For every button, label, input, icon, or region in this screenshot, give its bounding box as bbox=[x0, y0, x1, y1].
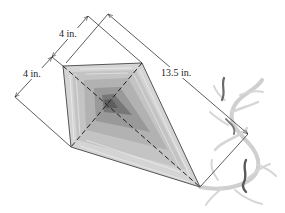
kite-tail bbox=[200, 78, 276, 205]
dimension-label-13-5in: 13.5 in. bbox=[160, 67, 192, 78]
dimension-label-left-4in: 4 in. bbox=[22, 68, 42, 79]
kite-diagram: 4 in. 4 in. 13.5 in. bbox=[0, 0, 285, 213]
kite-figure bbox=[0, 0, 285, 213]
kite-body bbox=[63, 63, 200, 187]
dimension-label-top-4in: 4 in. bbox=[58, 28, 78, 39]
